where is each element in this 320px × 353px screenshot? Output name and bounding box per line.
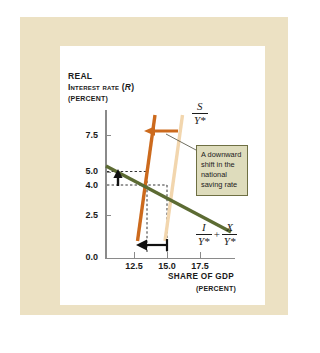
- curve-label-demand-term2: X Y*: [222, 222, 238, 247]
- curve-label-saving-numerator: S: [192, 101, 208, 113]
- shift-arrow-horizontal-top: [144, 126, 178, 136]
- figure-container: REAL Interest rate (R) (PERCENT) 7.5 5.0…: [0, 0, 320, 353]
- curve-label-demand-term1: I Y*: [196, 222, 212, 247]
- demand-term1-denominator: Y*: [196, 234, 212, 247]
- curve-label-saving-denominator: Y*: [192, 113, 208, 126]
- demand-label-operator: +: [212, 228, 222, 240]
- chart-curves: [0, 0, 320, 353]
- shift-callout: A downward shift in the national saving …: [196, 145, 248, 196]
- demand-term2-denominator: Y*: [222, 234, 238, 247]
- curve-label-saving: S Y*: [192, 101, 208, 126]
- demand-term1-numerator: I: [196, 222, 212, 234]
- demand-term2-numerator: X: [222, 222, 238, 234]
- share-decrease-arrow: [136, 239, 167, 251]
- curve-saving-original: [165, 115, 183, 241]
- curve-label-demand: I Y* + X Y*: [196, 222, 237, 247]
